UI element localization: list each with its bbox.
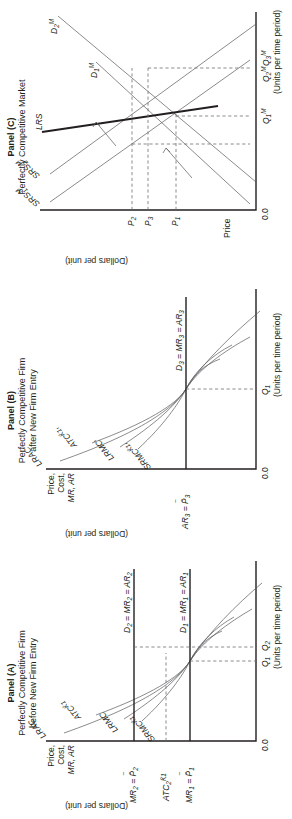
panel-c-ytick-p2: P2 — [126, 217, 137, 226]
panel-b-ylab-3: MR, AR — [66, 473, 76, 517]
panel-a-ylab-2: Cost, — [56, 745, 66, 789]
panel-a-plot — [0, 547, 292, 819]
panel-c-xtick-q3m: Q3M — [260, 50, 272, 66]
panel-b-x-units: (Units per time period) — [272, 313, 282, 397]
panel-b-ylab-2: Cost, — [56, 473, 66, 517]
curve-srmc-k1 — [142, 631, 222, 721]
panel-a-ytick-atc2: ATC2K̄1 — [160, 773, 172, 801]
panel-c-xtick-q2m: Q2M — [260, 66, 272, 82]
curve-atc-k1-prime — [92, 337, 250, 443]
panel-a-ylab-3: MR, AR — [66, 745, 76, 789]
panel-c-ytick-p3: P3 — [143, 217, 154, 226]
panel-c-xtick-q1m: Q1M — [260, 108, 272, 124]
panel-a-x-units: (Units per time period) — [272, 585, 282, 669]
supply-srs1 — [50, 60, 250, 202]
arrow-head-1 — [163, 148, 170, 153]
panel-b-xtick-q1: Q1 — [260, 385, 271, 395]
panel-b-y-axis-label: Price, Cost, MR, AR — [46, 473, 76, 517]
panel-c-ytick-p1: P1 — [170, 217, 181, 226]
panel-b-ylab-1: Price, — [46, 473, 56, 517]
panel-a-xtick-q1: Q1 — [260, 657, 271, 667]
panel-c-xtick-zero: 0.0 — [260, 208, 270, 220]
panel-a: Panel (A) Perfectly Competitive Firm bef… — [0, 547, 292, 819]
label-d2: D2 = MR2 = AR2 — [122, 572, 133, 633]
panel-c-y-units: (Dollars per unit) — [65, 256, 128, 266]
curve-lrac-prime — [60, 311, 260, 461]
supply-srs2 — [50, 24, 256, 174]
panel-c-y-axis-label: Price — [222, 219, 232, 238]
panel-b-plot — [0, 274, 292, 547]
curve-lrac — [64, 583, 262, 733]
panel-a-xtick-zero: 0.0 — [260, 739, 270, 751]
label-d1: D1 = MR1 = AR1 — [178, 572, 189, 633]
panel-c-x-units: (Units per time period) — [272, 10, 282, 94]
demand-d1m — [96, 62, 250, 204]
label-d1m: D1M — [88, 63, 100, 78]
label-d2m: D2M — [48, 19, 60, 34]
arrow-shift-2 — [96, 122, 116, 146]
panel-a-xtick-q2: Q2 — [260, 641, 271, 651]
panel-a-ylab-1: Price, — [46, 745, 56, 789]
panel-a-y-units: (Dollars per unit) — [65, 801, 128, 811]
panel-a-ytick-mr1: MR1 = P̄1 — [184, 767, 195, 803]
panel-b-y-units: (Dollars per unit) — [65, 529, 128, 539]
curve-atc-k1 — [96, 609, 252, 715]
panel-a-ytick-mr2: MR2 = P̄2 — [128, 767, 139, 803]
panel-c-plot — [0, 0, 292, 274]
curve-srmc-k1-prime — [138, 359, 220, 449]
panel-b: Panel (B) Perfectly Competitive Firm aft… — [0, 274, 292, 547]
demand-d2m — [58, 16, 256, 182]
label-d3: D3 = MR3 = AR3 — [174, 310, 185, 371]
panel-b-xtick-zero: 0.0 — [260, 467, 270, 479]
label-lrs: LRS — [34, 113, 44, 130]
arrow-shift-1 — [166, 148, 192, 178]
panel-a-y-axis-label: Price, Cost, MR, AR — [46, 745, 76, 789]
panel-b-ytick-ar3: AR3 = P̄3 — [180, 495, 191, 529]
figure-rotator: Panel (A) Perfectly Competitive Firm bef… — [0, 0, 292, 819]
panel-c: Panel (C) Perfectly Competitive Market — [0, 0, 292, 274]
